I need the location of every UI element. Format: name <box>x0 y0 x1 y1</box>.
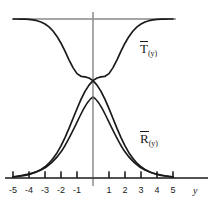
t-symbol: T <box>140 41 148 55</box>
xtick-label: 4 <box>154 186 159 195</box>
xtick-label: 2 <box>122 186 127 195</box>
transmission-reflection-plot: T(y) R(y) -5 -4 -3 -2 -1 1 2 3 4 5 y <box>0 0 213 202</box>
xtick-label: -5 <box>9 186 17 195</box>
xtick-label: -2 <box>57 186 65 195</box>
xtick-label: -1 <box>73 186 81 195</box>
x-axis-label: y <box>193 186 197 196</box>
t-subscript: (y) <box>148 49 157 58</box>
curves-layer <box>0 0 213 202</box>
xtick-label: 5 <box>170 186 175 195</box>
xtick-label: 3 <box>138 186 143 195</box>
curve-label-t-bar: T(y) <box>140 40 157 58</box>
xtick-label: 1 <box>106 186 111 195</box>
r-subscript: (y) <box>149 139 158 148</box>
r-symbol: R <box>140 131 149 145</box>
xtick-label: -3 <box>41 186 49 195</box>
curve-label-r-bar: R(y) <box>140 130 158 148</box>
xtick-label: -4 <box>25 186 33 195</box>
